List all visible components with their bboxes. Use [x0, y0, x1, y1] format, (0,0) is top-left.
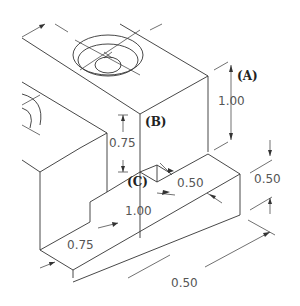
label-b: (B)	[145, 115, 167, 129]
dim-step-height: 0.75	[109, 136, 136, 150]
label-c: (C)	[127, 175, 148, 189]
dim-base-depth: 0.75	[67, 238, 94, 252]
left-block	[22, 82, 107, 250]
upper-block	[22, 24, 208, 238]
dim-overall-width: 0.50	[171, 276, 198, 290]
label-a: (A)	[237, 69, 258, 83]
dim-ledge-depth: 0.50	[177, 176, 204, 190]
isometric-drawing	[0, 0, 300, 306]
dim-ledge-length: 1.00	[125, 204, 152, 218]
dim-ledge-height: 0.50	[254, 172, 281, 186]
dim-upper-block-height: 1.00	[218, 94, 245, 108]
